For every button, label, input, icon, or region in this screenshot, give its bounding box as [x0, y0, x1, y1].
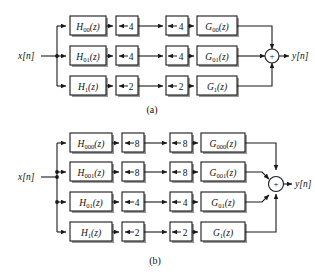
panel-b-analysis-filter-2-arg: (z) — [93, 198, 103, 209]
panel-b-analysis-filter-0-arg: (z) — [94, 139, 104, 150]
panel-b-tap-node-2 — [55, 200, 59, 204]
panel-b-downsampler-1-factor: 8 — [135, 168, 140, 178]
panel-a-upsampler-1-factor: 4 — [179, 52, 184, 62]
svg-text:H1(z): H1(z) — [77, 82, 98, 93]
panel-a-sum-symbol: + — [269, 51, 274, 61]
panel-b-branch-2: H01(z) 4 4 G01(z) — [70, 192, 269, 213]
svg-text:H1(z): H1(z) — [80, 228, 101, 239]
panel-a-analysis-filter-1-sub: 01 — [83, 56, 90, 63]
panel-a-diagram: x[n] H00(z) 4 4 — [0, 0, 315, 118]
panel-a-analysis-filter-2-arg: (z) — [88, 82, 98, 93]
panel-a-wire-g0-to-sum — [237, 26, 272, 49]
panel-a-analysis-filter-1-arg: (z) — [90, 52, 100, 63]
panel-b-upsampler-1-factor: 8 — [183, 168, 188, 178]
panel-b-caption: (b) — [149, 255, 161, 267]
panel-b-input-label: x[n] — [17, 172, 35, 182]
panel-a-downsampler-2-factor: 2 — [129, 82, 134, 92]
panel-b-tap-node-1 — [55, 170, 59, 174]
panel-b-wire-g3-to-sum — [245, 194, 276, 232]
panel-a-output-label: y[n] — [291, 51, 309, 61]
panel-a-upsampler-0-factor: 4 — [179, 22, 184, 32]
panel-b-downsampler-0-factor: 8 — [135, 139, 140, 149]
svg-text:G1(z): G1(z) — [207, 82, 227, 93]
panel-b-downsampler-3-factor: 2 — [135, 228, 140, 238]
panel-b-analysis-filter-3-arg: (z) — [91, 228, 101, 239]
panel-a-synthesis-filter-2-arg: (z) — [217, 82, 227, 93]
panel-a-downsampler-0-factor: 4 — [129, 22, 134, 32]
panel-b-branch-1: H001(z) 8 8 G001(z) — [70, 162, 269, 183]
panel-b-synthesis-filter-2-arg: (z) — [225, 198, 235, 209]
panel-a-wire-g2-to-sum — [237, 63, 272, 86]
panel-b-analysis-filter-1-sub: 001 — [84, 172, 94, 179]
panel-b-diagram: x[n] H000(z) 8 8 — [0, 118, 315, 278]
panel-b-analysis-filter-1-arg: (z) — [94, 168, 104, 179]
panel-a-synthesis-filter-1-sub: 01 — [212, 56, 219, 63]
panel-a-synthesis-filter-1-arg: (z) — [219, 52, 229, 63]
panel-b-synthesis-filter-0-arg: (z) — [226, 139, 236, 150]
figure-root: x[n] H00(z) 4 4 — [0, 0, 315, 278]
panel-b-synthesis-filter-1-sub: 001 — [216, 172, 226, 179]
panel-a-branch-1: H01(z) 4 4 G01(z) — [70, 46, 265, 67]
panel-b-analysis-filter-2-sub: 01 — [86, 202, 93, 209]
panel-b-output-label: y[n] — [294, 179, 312, 189]
panel-b-synthesis-filter-3-arg: (z) — [223, 228, 233, 239]
panel-a-caption: (a) — [146, 104, 157, 116]
panel-b-wire-g0-to-sum — [245, 143, 276, 170]
panel-a-branch-2: H1(z) 2 2 G1(z) — [70, 63, 272, 97]
panel-a-branch-0: H00(z) 4 4 G00(z) — [70, 16, 272, 49]
panel-a-input-label: x[n] — [17, 51, 35, 61]
panel-a-upsampler-2-factor: 2 — [179, 82, 184, 92]
panel-b-downsampler-2-factor: 4 — [135, 198, 140, 208]
panel-b-upsampler-0-factor: 8 — [183, 139, 188, 149]
panel-b-wire-g1-to-sum — [245, 172, 269, 179]
panel-b-upsampler-3-factor: 2 — [183, 228, 188, 238]
panel-b-upsampler-2-factor: 4 — [183, 198, 188, 208]
panel-a-downsampler-1-factor: 4 — [129, 52, 134, 62]
panel-b-synthesis-filter-1-arg: (z) — [226, 168, 236, 179]
panel-b-sum-symbol: + — [273, 179, 278, 189]
svg-text:G1(z): G1(z) — [213, 228, 233, 239]
panel-b-wire-g2-to-sum — [245, 195, 269, 202]
panel-a-synthesis-filter-0-arg: (z) — [219, 22, 229, 33]
panel-a-analysis-filter-0-arg: (z) — [90, 22, 100, 33]
panel-b-synthesis-filter-2-sub: 01 — [218, 202, 225, 209]
